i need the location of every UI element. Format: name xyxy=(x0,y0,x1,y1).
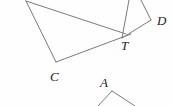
segment-apex-to-T xyxy=(26,1,126,34)
vertex-label-a: A xyxy=(100,76,108,89)
segment-A-right-leg xyxy=(112,91,135,106)
segment-apex-to-C xyxy=(26,1,56,62)
segment-T-upward xyxy=(122,0,129,38)
geometry-figure: C T D A xyxy=(0,0,173,106)
segment-T-to-D xyxy=(122,20,151,38)
segment-A-left-leg xyxy=(98,91,112,106)
vertex-label-d: D xyxy=(157,14,166,27)
figure-canvas xyxy=(0,0,173,106)
segment-D-upward xyxy=(141,0,151,20)
segment-group xyxy=(26,0,151,106)
segment-C-to-T xyxy=(56,34,131,62)
vertex-label-t: T xyxy=(121,39,128,52)
vertex-label-c: C xyxy=(50,70,59,83)
